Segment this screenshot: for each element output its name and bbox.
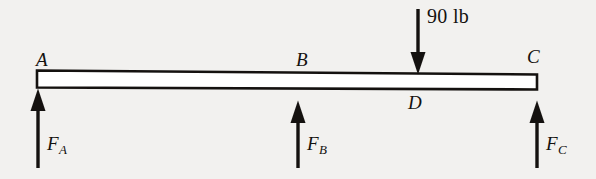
force-subscript-fb: B bbox=[319, 142, 327, 157]
force-base-fa: F bbox=[47, 133, 59, 154]
point-label-b: B bbox=[296, 50, 308, 69]
diagram-vector-layer bbox=[0, 0, 596, 179]
force-base-fc: F bbox=[546, 133, 558, 154]
load-label: 90 lb bbox=[427, 6, 469, 26]
force-subscript-fa: A bbox=[59, 142, 67, 157]
force-subscript-fc: C bbox=[558, 142, 567, 157]
reaction-arrow-a bbox=[31, 89, 46, 169]
force-label-fc: FC bbox=[546, 134, 567, 156]
point-label-c: C bbox=[527, 47, 540, 66]
reaction-arrow-c bbox=[530, 101, 545, 169]
reaction-arrow-b bbox=[291, 101, 306, 169]
point-label-d: D bbox=[408, 93, 422, 112]
point-label-a: A bbox=[36, 50, 48, 69]
force-label-fb: FB bbox=[307, 134, 327, 156]
force-base-fb: F bbox=[307, 133, 319, 154]
force-label-fa: FA bbox=[47, 134, 67, 156]
load-arrow-down bbox=[411, 9, 426, 75]
free-body-diagram: A B C D 90 lb FA FB FC bbox=[0, 0, 596, 179]
beam-body bbox=[37, 71, 537, 90]
